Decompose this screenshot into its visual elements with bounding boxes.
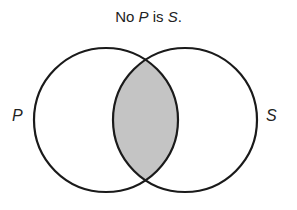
label-p: P	[12, 107, 23, 125]
label-s: S	[266, 107, 277, 125]
venn-diagram	[0, 0, 297, 210]
